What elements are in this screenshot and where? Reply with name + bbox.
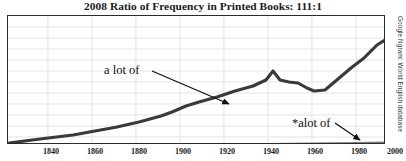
- chart-title: 2008 Ratio of Frequency in Printed Books…: [0, 0, 406, 13]
- annotation-alot-of: *alot of: [292, 117, 331, 130]
- annotation-a-lot-of: a lot of: [104, 64, 139, 77]
- source-credit-text: Google Ngram: World English database: [397, 16, 404, 132]
- x-tick-1900: 1900: [175, 147, 191, 156]
- x-tick-1920: 1920: [219, 147, 235, 156]
- x-tick-1860: 1860: [87, 147, 103, 156]
- series-line-alot-of: [9, 143, 385, 145]
- x-tick-1880: 1880: [131, 147, 147, 156]
- x-tick-1840: 1840: [43, 147, 59, 156]
- x-tick-2000: 2000: [387, 147, 403, 156]
- x-tick-1960: 1960: [307, 147, 323, 156]
- ngram-chart: 2008 Ratio of Frequency in Printed Books…: [0, 0, 406, 161]
- x-tick-1940: 1940: [263, 147, 279, 156]
- source-credit: Google Ngram: World English database: [395, 16, 406, 144]
- x-tick-1980: 1980: [351, 147, 367, 156]
